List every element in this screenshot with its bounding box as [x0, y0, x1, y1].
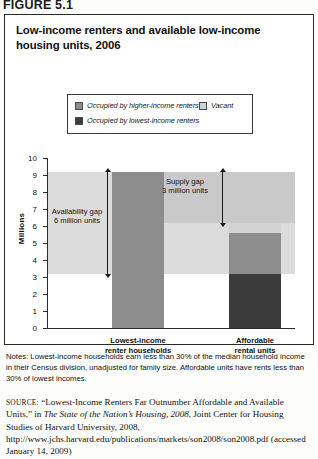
y-axis-tick-label: 9: [33, 171, 37, 180]
y-axis-tick-label: 10: [28, 154, 37, 163]
supply-gap-arrow-head-up-icon: [220, 168, 226, 172]
chart-plot-area: Millions 012345678910Lowest-incomerenter…: [5, 138, 315, 346]
figure-source: SOURCE: “Lowest-Income Renters Far Outnu…: [6, 396, 312, 458]
supply-gap-label-line2: 3 million units: [152, 186, 218, 195]
category-label-line1: Lowest-income: [88, 336, 188, 346]
y-axis-tick-label: 3: [33, 273, 37, 282]
higher-income-swatch-icon: [75, 102, 83, 110]
y-axis-tick-label: 8: [33, 188, 37, 197]
bar-affordable-rental-units[interactable]: [229, 152, 281, 332]
lowest-income-swatch-icon: [75, 117, 83, 125]
bar-segment-vacant: [229, 223, 281, 233]
availability-gap-label-line2: 6 million units: [44, 216, 110, 225]
supply-gap-arrow-line: [222, 172, 223, 223]
availability-gap-label: Availability gap6 million units: [44, 207, 110, 226]
legend-item-vacant: Vacant: [199, 101, 233, 110]
y-axis-tick: 4: [43, 260, 47, 261]
legend-label-higher-income: Occupied by higher-income renters: [87, 101, 199, 110]
supply-gap-arrow-head-down-icon: [220, 223, 226, 227]
legend-item-higher-income: Occupied by higher-income renters: [75, 101, 199, 110]
axis-area: 012345678910Lowest-incomerenter househol…: [47, 152, 295, 332]
y-axis-tick-label: 1: [33, 307, 37, 316]
y-axis-tick: 3: [43, 277, 47, 278]
supply-gap-label-line1: Supply gap: [152, 177, 218, 186]
y-axis-tick: 9: [43, 175, 47, 176]
availability-gap-arrow-head-down-icon: [105, 274, 111, 278]
y-axis-tick-label: 4: [33, 256, 37, 265]
y-axis-tick-label: 7: [33, 205, 37, 214]
supply-gap-label: Supply gap3 million units: [152, 177, 218, 196]
legend-item-lowest-income: Occupied by lowest-income renters: [75, 116, 199, 125]
y-axis-tick-label: 0: [33, 324, 37, 333]
y-axis-tick-label: 2: [33, 290, 37, 299]
bar-segment-lowest-income: [229, 274, 281, 328]
legend-label-lowest-income: Occupied by lowest-income renters: [87, 116, 199, 125]
chart-legend: Occupied by higher-income renters Occupi…: [67, 94, 253, 134]
y-axis-tick: 5: [43, 243, 47, 244]
y-axis-tick-label: 5: [33, 239, 37, 248]
category-label-line1: Affordable: [205, 336, 305, 346]
y-axis-title: Millions: [17, 199, 26, 259]
y-axis-tick: 0: [43, 328, 47, 329]
availability-gap-label-line1: Availability gap: [44, 207, 110, 216]
figure-number: FIGURE 5.1: [3, 0, 73, 12]
y-axis-tick: 10: [43, 158, 47, 159]
figure-box: Low-income renters and available low-inc…: [4, 14, 314, 345]
y-axis-tick-label: 6: [33, 222, 37, 231]
legend-label-vacant: Vacant: [211, 101, 233, 110]
y-axis-tick: 6: [43, 226, 47, 227]
figure-notes: Notes: Lowest-income households earn les…: [6, 352, 310, 385]
source-keyword: SOURCE:: [6, 398, 39, 407]
figure-title: Low-income renters and available low-inc…: [16, 23, 304, 52]
y-axis-tick: 1: [43, 311, 47, 312]
vacant-swatch-icon: [199, 102, 207, 110]
figure-page: FIGURE 5.1 Low-income renters and availa…: [0, 0, 318, 459]
bar-segment-higher-income: [229, 233, 281, 274]
source-publication-title: The State of the Nation’s Housing, 2008: [44, 409, 189, 419]
y-axis-tick: 8: [43, 192, 47, 193]
availability-gap-arrow-head-up-icon: [105, 168, 111, 172]
y-axis-tick: 2: [43, 294, 47, 295]
